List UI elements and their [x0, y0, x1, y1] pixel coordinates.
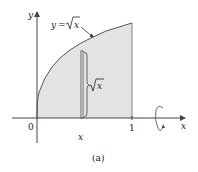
vertical-strip	[81, 51, 83, 118]
one-tick-label: 1	[129, 123, 135, 133]
x-sample-label: x	[78, 132, 83, 142]
y-axis-label: y	[27, 10, 34, 20]
svg-text:x: x	[97, 81, 102, 91]
svg-text:=: =	[58, 20, 66, 30]
shaded-region	[37, 23, 132, 118]
label-leader-arrow	[81, 27, 93, 37]
curve-label: y = x	[50, 17, 80, 30]
origin-label: 0	[28, 122, 34, 132]
figure-caption: (a)	[92, 153, 104, 163]
svg-text:y: y	[50, 20, 57, 30]
svg-text:x: x	[74, 20, 79, 30]
x-axis-label: x	[181, 121, 186, 131]
volume-diagram: x y = x y x 0 x 1 (a)	[0, 0, 198, 172]
